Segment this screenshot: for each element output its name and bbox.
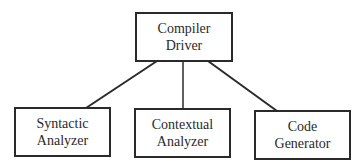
node-label-line: Generator <box>275 135 331 152</box>
compiler-driver-node: Compiler Driver <box>135 12 233 62</box>
node-label-line: Code <box>288 118 318 135</box>
node-label-line: Driver <box>166 37 203 54</box>
node-label-line: Compiler <box>158 20 211 37</box>
code-generator-node: Code Generator <box>254 110 351 160</box>
node-label-line: Contextual <box>152 116 213 133</box>
node-label-line: Analyzer <box>37 132 88 149</box>
syntactic-analyzer-node: Syntactic Analyzer <box>14 107 111 157</box>
contextual-analyzer-node: Contextual Analyzer <box>134 108 231 158</box>
edge-driver-to-syntactic <box>86 61 157 108</box>
node-label-line: Syntactic <box>36 115 88 132</box>
node-label-line: Analyzer <box>157 133 208 150</box>
edge-driver-to-codegen <box>208 61 277 111</box>
